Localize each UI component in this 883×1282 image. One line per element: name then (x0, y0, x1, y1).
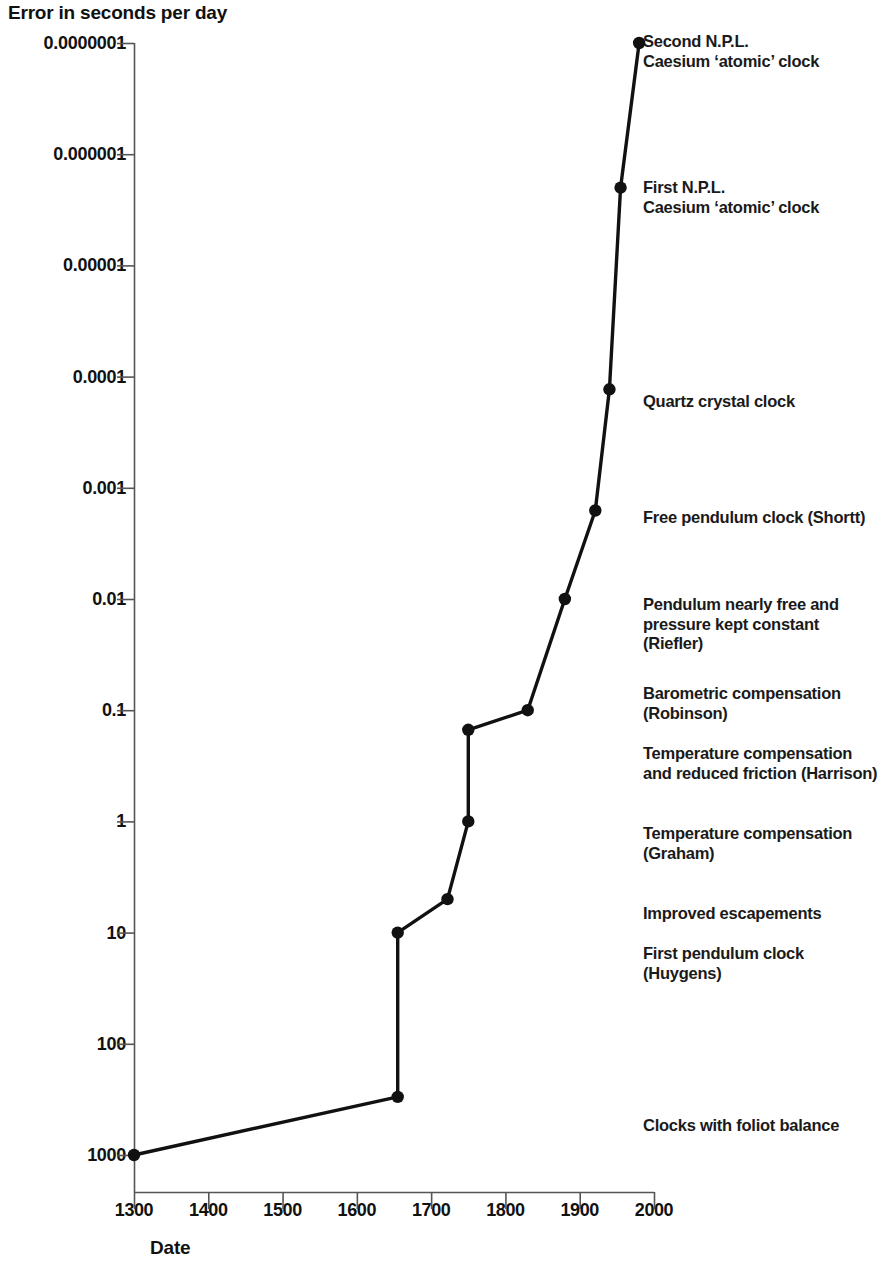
axis-group (117, 43, 655, 1209)
data-point-marker (559, 593, 571, 605)
data-series-clock-accuracy (128, 37, 646, 1161)
data-point-marker (441, 893, 453, 905)
data-point-marker (392, 926, 404, 938)
data-point-marker (462, 724, 474, 736)
data-point-marker (614, 181, 626, 193)
data-point-marker (128, 1149, 140, 1161)
data-point-marker (522, 704, 534, 716)
data-point-marker (603, 383, 615, 395)
chart-canvas: Error in seconds per day Date 0.00000010… (0, 0, 883, 1282)
plot-svg (0, 0, 883, 1282)
data-point-marker (392, 1091, 404, 1103)
data-point-marker (633, 37, 645, 49)
data-point-marker (462, 815, 474, 827)
data-point-marker (589, 504, 601, 516)
